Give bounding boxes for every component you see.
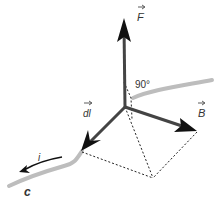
angle-label: 90° [135, 79, 150, 90]
dl-vector [88, 107, 125, 144]
dl-label: dl [83, 101, 92, 119]
force-vector [124, 26, 125, 107]
current-arrowhead [19, 165, 30, 173]
svg-text:F: F [137, 11, 145, 23]
b-label: B [198, 101, 205, 119]
biot-savart-force-diagram: F 90° dl B i c [0, 0, 223, 206]
wire-curve-lower [9, 151, 82, 186]
svg-text:dl: dl [83, 108, 92, 119]
svg-text:B: B [198, 107, 205, 119]
b-vector [125, 107, 188, 128]
curve-label: c [24, 185, 31, 199]
current-label: i [38, 152, 41, 163]
force-label: F [137, 5, 145, 23]
